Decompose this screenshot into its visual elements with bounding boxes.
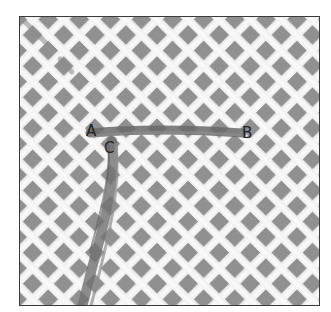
photo-frame: A B C <box>19 16 320 306</box>
label-a: A <box>86 124 96 139</box>
label-b: B <box>242 126 252 141</box>
label-c: C <box>104 141 114 156</box>
plastic-canvas-mesh <box>19 16 320 306</box>
